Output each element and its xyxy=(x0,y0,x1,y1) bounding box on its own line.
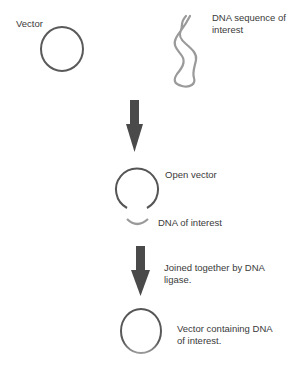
ligase-label-line1: Joined together by DNA xyxy=(164,262,265,274)
dna-sequence-squiggle xyxy=(175,16,196,87)
dna-sequence-label-line1: DNA sequence of xyxy=(212,12,286,24)
dna-of-interest-label: DNA of interest xyxy=(158,217,222,229)
result-label-line1: Vector containing DNA xyxy=(177,323,273,335)
recombinant-vector-circle xyxy=(121,309,161,353)
open-vector-arc xyxy=(116,169,158,208)
vector-circle xyxy=(41,27,83,71)
vector-label: Vector xyxy=(16,18,43,30)
ligase-label: Joined together by DNA ligase. xyxy=(164,262,265,286)
ligase-label-line2: ligase. xyxy=(164,274,265,286)
dna-sequence-label: DNA sequence of interest xyxy=(212,12,286,36)
dna-sequence-label-line2: interest xyxy=(212,24,286,36)
result-label-line2: of interest. xyxy=(177,335,273,347)
diagram-canvas xyxy=(0,0,300,368)
arrow-down-icon xyxy=(131,246,150,296)
arrow-down-icon xyxy=(126,100,143,152)
open-vector-label: Open vector xyxy=(165,169,217,181)
result-label: Vector containing DNA of interest. xyxy=(177,323,273,347)
dna-of-interest-segment xyxy=(127,219,148,224)
